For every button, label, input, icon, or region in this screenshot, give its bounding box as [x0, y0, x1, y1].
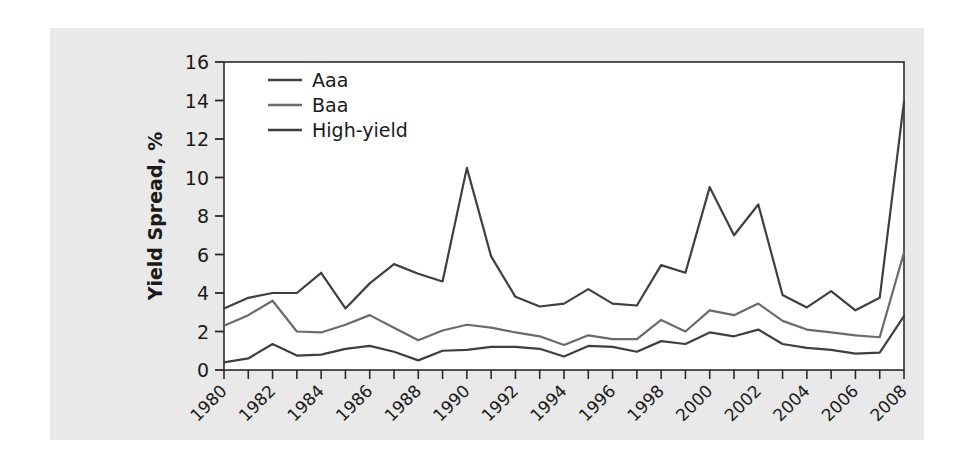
- legend-label-high-yield: High-yield: [312, 119, 408, 141]
- chart-plot-area: 0246810121416Yield Spread, %198019821984…: [0, 0, 974, 463]
- y-axis-tick-label: 4: [197, 282, 209, 304]
- x-axis-tick-label: 1988: [380, 381, 425, 426]
- x-axis-tick-label: 2000: [672, 381, 717, 426]
- x-axis-tick-label: 1980: [186, 381, 231, 426]
- y-axis-tick-label: 14: [185, 90, 209, 112]
- x-axis-tick-label: 1992: [478, 381, 523, 426]
- legend-label-aaa: Aaa: [312, 69, 348, 91]
- y-axis-tick-label: 2: [197, 321, 209, 343]
- x-axis-tick-label: 2008: [866, 381, 911, 426]
- y-axis-tick-label: 6: [197, 244, 209, 266]
- x-axis-tick-label: 2006: [818, 381, 863, 426]
- line-chart-svg: 0246810121416Yield Spread, %198019821984…: [0, 0, 974, 463]
- y-axis-tick-label: 8: [197, 205, 209, 227]
- y-axis-tick-label: 16: [185, 51, 209, 73]
- x-axis-tick-label: 1986: [332, 381, 377, 426]
- legend-label-baa: Baa: [312, 94, 348, 116]
- x-axis-tick-label: 1996: [575, 381, 620, 426]
- x-axis-tick-label: 1984: [283, 381, 328, 426]
- x-axis-tick-label: 1994: [526, 381, 571, 426]
- x-axis-tick-label: 1990: [429, 381, 474, 426]
- y-axis-tick-label: 0: [197, 359, 209, 381]
- y-axis-title: Yield Spread, %: [144, 132, 166, 302]
- x-axis-tick-label: 2004: [769, 381, 814, 426]
- x-axis-tick-label: 2002: [720, 381, 765, 426]
- x-axis-tick-label: 1998: [623, 381, 668, 426]
- y-axis-tick-label: 12: [185, 128, 209, 150]
- x-axis-tick-label: 1982: [235, 381, 280, 426]
- figure-container: 0246810121416Yield Spread, %198019821984…: [0, 0, 974, 463]
- y-axis-tick-label: 10: [185, 167, 209, 189]
